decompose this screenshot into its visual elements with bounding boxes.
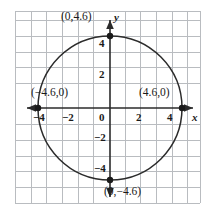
x-tick-label-minus4: −4 bbox=[33, 112, 45, 123]
point-label-right: (4.6,0) bbox=[139, 87, 170, 99]
point-top bbox=[107, 33, 113, 39]
x-tick-label-minus2: −2 bbox=[62, 112, 74, 123]
point-label-bottom: (0,−4.6) bbox=[104, 186, 141, 198]
coordinate-plane-svg bbox=[0, 0, 209, 214]
y-tick-label-minus4: −4 bbox=[94, 163, 106, 174]
y-tick-label-minus2: −2 bbox=[94, 132, 106, 143]
point-bottom bbox=[107, 177, 113, 183]
point-label-left: (−4.6,0) bbox=[31, 87, 68, 99]
y-axis-name: y bbox=[114, 12, 119, 23]
point-label-top: (0,4.6) bbox=[61, 11, 92, 23]
y-axis-up-arrow bbox=[106, 20, 114, 29]
y-tick-label-4: 4 bbox=[99, 38, 105, 49]
x-tick-label-2: 2 bbox=[136, 112, 142, 123]
x-tick-label-zero: 0 bbox=[99, 112, 105, 123]
circle-graph-figure: (0,4.6) (−4.6,0) (4.6,0) (0,−4.6) −4 −2 … bbox=[0, 0, 209, 214]
x-axis-name: x bbox=[192, 112, 198, 123]
axis-lines bbox=[27, 20, 193, 197]
point-right bbox=[179, 105, 185, 111]
grid-lines bbox=[15, 11, 200, 203]
x-tick-label-4: 4 bbox=[167, 112, 173, 123]
y-tick-label-2: 2 bbox=[99, 69, 105, 80]
